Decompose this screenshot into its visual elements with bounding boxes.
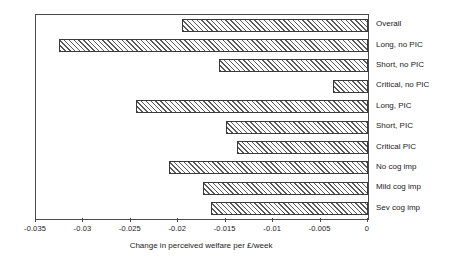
bars-layer	[36, 15, 368, 219]
x-tick-mark	[320, 218, 321, 222]
x-tick-mark	[272, 218, 273, 222]
bar[interactable]	[237, 141, 368, 154]
bar-row	[36, 15, 368, 35]
x-tick-mark	[82, 218, 83, 222]
bar[interactable]	[59, 39, 368, 52]
x-tick-mark	[130, 218, 131, 222]
category-label: Short, no PIC	[376, 60, 424, 70]
x-tick-label: -0.02	[168, 224, 186, 234]
x-tick-label: 0	[365, 224, 369, 234]
category-label: Sev cog imp	[376, 203, 420, 213]
x-axis-title: Change in perceived welfare per £/week	[35, 241, 367, 250]
bar[interactable]	[169, 161, 368, 174]
category-label: Critical, no PIC	[376, 80, 429, 90]
x-tick-label: -0.035	[24, 224, 46, 234]
x-tick-label: -0.015	[214, 224, 236, 234]
x-tick-label: -0.025	[119, 224, 141, 234]
bar[interactable]	[226, 121, 368, 134]
bar-row	[36, 76, 368, 96]
bar-row	[36, 56, 368, 76]
bar-row	[36, 137, 368, 157]
category-label: Long, PIC	[376, 101, 412, 111]
x-tick-label: -0.03	[74, 224, 92, 234]
bar[interactable]	[182, 19, 368, 32]
bar-row	[36, 117, 368, 137]
category-label: Critical PIC	[376, 142, 416, 152]
x-tick-label: -0.01	[263, 224, 281, 234]
plot-area	[35, 14, 369, 220]
bar-row	[36, 178, 368, 198]
bar[interactable]	[219, 59, 368, 72]
x-tick-mark	[35, 218, 36, 222]
x-tick-label: -0.005	[309, 224, 331, 234]
bar-row	[36, 158, 368, 178]
x-tick-mark	[367, 218, 368, 222]
bar[interactable]	[203, 182, 368, 195]
bar[interactable]	[136, 100, 368, 113]
bar-row	[36, 97, 368, 117]
x-tick-mark	[177, 218, 178, 222]
category-label: Long, no PIC	[376, 40, 423, 50]
bar-row	[36, 35, 368, 55]
x-tick-mark	[225, 218, 226, 222]
bar-row	[36, 199, 368, 219]
category-label: Mild cog imp	[376, 182, 421, 192]
category-label: Overall	[376, 19, 401, 29]
bar[interactable]	[333, 80, 368, 93]
category-label: No cog imp	[376, 162, 416, 172]
bar[interactable]	[211, 202, 368, 215]
bar-chart: -0.035-0.03-0.025-0.02-0.015-0.01-0.0050…	[0, 0, 452, 267]
category-label: Short, PIC	[376, 121, 413, 131]
